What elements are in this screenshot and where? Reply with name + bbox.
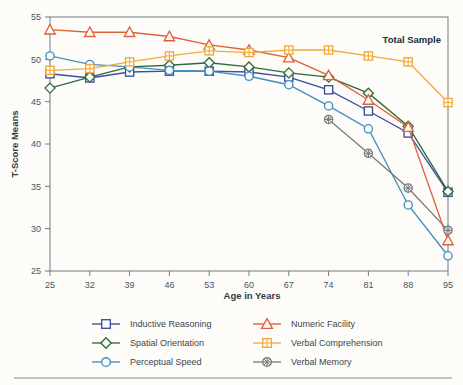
- data-point-circle: [165, 66, 173, 74]
- data-point-square: [102, 320, 111, 329]
- legend-label: Numeric Facility: [291, 319, 356, 329]
- y-tick-label: 30: [31, 224, 41, 234]
- legend-item-numeric-facility[interactable]: Numeric Facility: [253, 319, 356, 330]
- data-point-circle: [444, 252, 452, 260]
- line-chart-svg: 25303540455055 2532394653606774818895 To…: [0, 0, 463, 385]
- data-point-square: [325, 86, 333, 94]
- data-point-circle: [364, 125, 372, 133]
- y-tick-label: 55: [31, 12, 41, 22]
- y-tick-label: 50: [31, 55, 41, 65]
- y-tick-label: 35: [31, 182, 41, 192]
- x-tick-label: 95: [443, 280, 453, 290]
- legend-label: Perceptual Speed: [130, 357, 202, 367]
- x-axis-label: Age in Years: [224, 290, 281, 301]
- data-point-circle: [285, 81, 293, 89]
- x-tick-label: 81: [363, 280, 373, 290]
- x-tick-label: 25: [45, 280, 55, 290]
- data-point-square: [364, 107, 372, 115]
- legend-item-perceptual-speed[interactable]: Perceptual Speed: [92, 357, 202, 367]
- legend-item-inductive-reasoning[interactable]: Inductive Reasoning: [92, 319, 212, 329]
- legend-label: Inductive Reasoning: [130, 319, 212, 329]
- legend-label: Verbal Comprehension: [291, 338, 383, 348]
- x-tick-label: 39: [125, 280, 135, 290]
- y-axis-label: T-Score Means: [9, 110, 20, 177]
- figure-background: [0, 0, 463, 385]
- x-tick-label: 67: [284, 280, 294, 290]
- x-tick-label: 46: [164, 280, 174, 290]
- legend-label: Spatial Orientation: [130, 338, 204, 348]
- panel-title: Total Sample: [383, 34, 441, 45]
- y-tick-label: 40: [31, 139, 41, 149]
- data-point-circle: [102, 358, 111, 367]
- data-point-circle: [46, 52, 54, 60]
- x-tick-label: 53: [204, 280, 214, 290]
- data-point-circle: [245, 72, 253, 80]
- x-tick-label: 60: [244, 280, 254, 290]
- y-tick-label: 45: [31, 97, 41, 107]
- x-tick-label: 88: [403, 280, 413, 290]
- y-tick-label: 25: [31, 266, 41, 276]
- x-tick-label: 32: [85, 280, 95, 290]
- chart-figure: 25303540455055 2532394653606774818895 To…: [0, 0, 463, 385]
- data-point-circle: [325, 102, 333, 110]
- data-point-circle: [205, 67, 213, 75]
- x-tick-label: 74: [324, 280, 334, 290]
- legend-label: Verbal Memory: [291, 357, 352, 367]
- legend-item-verbal-memory[interactable]: Verbal Memory: [253, 357, 352, 367]
- data-point-circle: [404, 201, 412, 209]
